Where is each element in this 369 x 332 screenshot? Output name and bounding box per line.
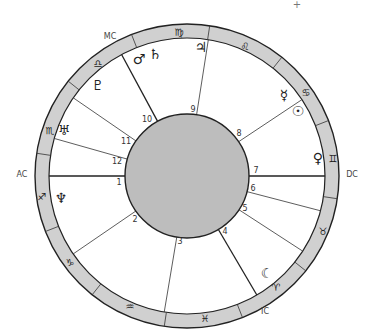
gemini-icon: ♊ bbox=[329, 153, 338, 164]
angle-label-dc: DC bbox=[346, 170, 358, 179]
mars-icon: ♂ bbox=[133, 51, 146, 67]
angle-label-mc: MC bbox=[104, 32, 117, 41]
house-number-5: 5 bbox=[242, 204, 247, 213]
mercury-icon: ☿ bbox=[280, 87, 289, 103]
moon-icon: ☾ bbox=[261, 265, 274, 281]
scorpio-icon: ♏ bbox=[46, 125, 55, 136]
cancer-icon: ♋ bbox=[302, 87, 311, 98]
libra-icon: ♎ bbox=[94, 58, 103, 69]
angle-label-ac: AC bbox=[17, 170, 28, 179]
house-number-4: 4 bbox=[222, 227, 227, 236]
sun-icon: ☉ bbox=[292, 103, 305, 119]
house-number-9: 9 bbox=[190, 105, 195, 114]
capricorn-icon: ♑ bbox=[66, 257, 75, 268]
venus-icon: ♀ bbox=[313, 150, 323, 166]
jupiter-icon: ♃ bbox=[195, 39, 208, 55]
virgo-icon: ♍ bbox=[175, 27, 184, 38]
taurus-icon: ♉ bbox=[319, 226, 328, 237]
center-disk bbox=[125, 114, 249, 238]
house-number-3: 3 bbox=[177, 237, 182, 246]
pluto-icon: ♇ bbox=[92, 77, 105, 93]
aries-icon: ♈ bbox=[272, 282, 281, 293]
pisces-icon: ♓ bbox=[201, 313, 210, 324]
neptune-icon: ♆ bbox=[55, 190, 68, 206]
sagittarius-icon: ♐ bbox=[38, 191, 47, 202]
crosshair-icon: + bbox=[293, 0, 301, 10]
house-number-11: 11 bbox=[121, 137, 131, 146]
aquarius-icon: ♒ bbox=[126, 301, 135, 312]
house-number-8: 8 bbox=[236, 129, 241, 138]
house-number-1: 1 bbox=[116, 178, 121, 187]
house-number-10: 10 bbox=[142, 115, 152, 124]
saturn-icon: ♄ bbox=[149, 46, 162, 62]
uranus-icon: ♅ bbox=[58, 122, 71, 138]
leo-icon: ♌ bbox=[241, 41, 250, 52]
house-number-2: 2 bbox=[132, 215, 137, 224]
house-number-12: 12 bbox=[112, 157, 122, 166]
angle-label-ic: IC bbox=[261, 307, 269, 316]
astrology-chart: 123456789101112 ♊♋♌♍♎♏♐♑♒♓♈♉ ☉☾☿♀♂♃♄♅♆♇ … bbox=[0, 0, 369, 332]
house-number-7: 7 bbox=[253, 166, 258, 175]
crosshair-marker: + bbox=[293, 0, 301, 10]
house-number-6: 6 bbox=[250, 184, 255, 193]
center-disk-circle bbox=[125, 114, 249, 238]
